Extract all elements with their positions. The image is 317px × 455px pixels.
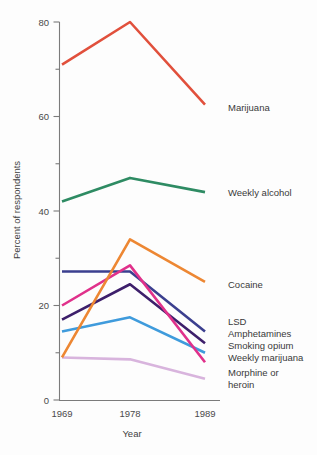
y-tick-label-80: 80: [38, 17, 49, 28]
series-line-morphine-or-heroin: [62, 357, 205, 378]
chart-figure: 80 60 40 20 0 1969 1978 1989 Percent of …: [0, 0, 317, 455]
series-label-amphetamines: Amphetamines: [228, 328, 292, 339]
series-line-cocaine: [62, 239, 205, 357]
series-label-morphine-or-heroin-line2: heroin: [228, 379, 254, 390]
line-chart-plot: 80 60 40 20 0 1969 1978 1989 Percent of …: [0, 0, 317, 455]
y-axis-title: Percent of respondents: [11, 161, 22, 259]
y-tick-label-60: 60: [38, 111, 49, 122]
series-label-cocaine: Cocaine: [228, 279, 263, 290]
series-label-morphine-or-heroin-line1: Morphine or: [228, 367, 279, 378]
x-tick-label-1969: 1969: [51, 408, 72, 419]
x-axis-title: Year: [122, 428, 141, 439]
series-label-marijuana: Marijuana: [228, 102, 270, 113]
x-tick-label-1989: 1989: [194, 408, 215, 419]
x-tick-label-1978: 1978: [119, 408, 140, 419]
y-tick-label-0: 0: [44, 395, 49, 406]
y-tick-label-20: 20: [38, 300, 49, 311]
y-tick-label-40: 40: [38, 206, 49, 217]
series-label-weekly-marijuana: Weekly marijuana: [228, 352, 304, 363]
series-label-weekly-alcohol: Weekly alcohol: [228, 187, 292, 198]
series-line-weekly-alcohol: [62, 178, 205, 202]
series-label-lsd: LSD: [228, 316, 247, 327]
series-line-marijuana: [62, 22, 205, 105]
series-label-smoking-opium: Smoking opium: [228, 340, 294, 351]
